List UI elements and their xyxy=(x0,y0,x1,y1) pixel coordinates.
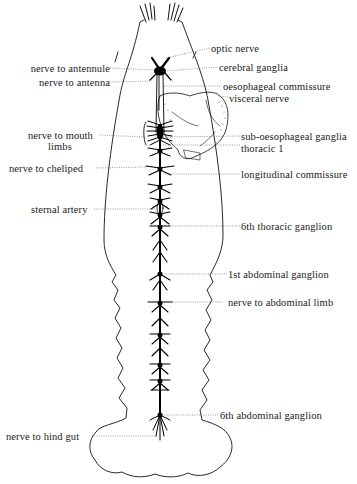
label-nerve-to-cheliped: nerve to cheliped xyxy=(9,163,83,174)
label-cerebral-ganglia: cerebral ganglia xyxy=(219,62,288,73)
label-optic-nerve: optic nerve xyxy=(211,43,259,54)
label-nerve-to-abdominal-limb: nerve to abdominal limb xyxy=(228,297,333,308)
label-nerve-to-mouth-limbs: nerve to mouth limbs xyxy=(28,130,93,152)
label-sub-oesophageal-ganglia: sub-oesophageal ganglia xyxy=(241,131,347,142)
nervous-system-diagram: optic nerve cerebral ganglia oesophageal… xyxy=(0,0,357,484)
leader-lines xyxy=(92,48,240,436)
label-nerve-to-antennule: nerve to antennule xyxy=(31,63,110,74)
label-nerve-to-mouth-line1: nerve to mouth xyxy=(28,130,93,141)
label-thoracic-1: thoracic 1 xyxy=(241,143,284,154)
label-nerve-to-hind-gut: nerve to hind gut xyxy=(6,431,79,442)
label-6th-abdominal-ganglion: 6th abdominal ganglion xyxy=(220,410,322,421)
label-longitudinal-commissure: longitudinal commissure xyxy=(241,169,347,180)
label-oesophageal-commissure: oesophageal commissure xyxy=(223,81,330,92)
label-nerve-to-antenna: nerve to antenna xyxy=(39,77,110,88)
label-visceral-nerve: visceral nerve xyxy=(229,93,289,104)
mouth-limbs-bracket xyxy=(144,122,146,145)
label-6th-thoracic-ganglion: 6th thoracic ganglion xyxy=(241,221,332,232)
antennae-bristles xyxy=(140,3,183,22)
label-nerve-to-mouth-line2: limbs xyxy=(28,141,93,152)
label-sternal-artery: sternal artery xyxy=(31,204,88,215)
label-1st-abdominal-ganglion: 1st abdominal ganglion xyxy=(228,269,329,280)
